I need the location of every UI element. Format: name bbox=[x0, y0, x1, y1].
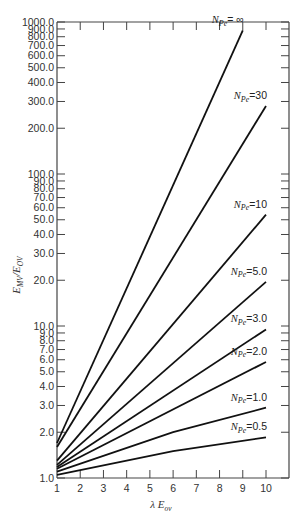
y-tick-label: 300.0 bbox=[28, 95, 54, 107]
y-tick-label: 1000.0 bbox=[22, 16, 54, 28]
x-tick-label: 10 bbox=[260, 482, 272, 494]
y-axis-ticks: 1.02.03.04.05.06.07.08.09.010.020.030.04… bbox=[22, 16, 289, 484]
curve-line bbox=[57, 437, 266, 474]
y-tick-label: 4.0 bbox=[39, 380, 54, 392]
y-tick-label: 40.0 bbox=[34, 228, 55, 240]
curve-label: NPe=2.0 bbox=[230, 345, 267, 360]
curve-label: NPe=10 bbox=[233, 198, 267, 213]
svg-text:EMV/EOV: EMV/EOV bbox=[10, 255, 25, 295]
curve-label: NPe=30 bbox=[233, 89, 267, 104]
chart: 1.02.03.04.05.06.07.08.09.010.020.030.04… bbox=[0, 0, 302, 514]
y-axis-title: EMV/EOV bbox=[10, 255, 25, 295]
curve-line bbox=[57, 408, 266, 472]
curve-label: NPe=5.0 bbox=[230, 265, 267, 280]
x-tick-label: 9 bbox=[240, 482, 246, 494]
x-tick-label: 3 bbox=[101, 482, 107, 494]
x-tick-label: 8 bbox=[217, 482, 223, 494]
y-tick-label: 400.0 bbox=[28, 76, 54, 88]
y-tick-label: 3.0 bbox=[39, 399, 54, 411]
x-axis-title: λ Eov bbox=[149, 498, 172, 513]
x-tick-label: 1 bbox=[54, 482, 60, 494]
curve-label: NPe= ∞ bbox=[211, 13, 244, 28]
x-tick-label: 6 bbox=[170, 482, 176, 494]
y-tick-label: 100.0 bbox=[28, 168, 54, 180]
y-tick-label: 50.0 bbox=[34, 213, 55, 225]
curve-line bbox=[57, 30, 243, 443]
svg-text:λ Eov: λ Eov bbox=[149, 498, 172, 513]
y-tick-label: 2.0 bbox=[39, 426, 54, 438]
y-tick-label: 5.0 bbox=[39, 365, 54, 377]
y-tick-label: 1.0 bbox=[39, 472, 54, 484]
x-tick-label: 4 bbox=[124, 482, 130, 494]
y-tick-label: 20.0 bbox=[34, 274, 55, 286]
y-tick-label: 10.0 bbox=[34, 320, 55, 332]
x-tick-label: 5 bbox=[147, 482, 153, 494]
curve-label: NPe=3.0 bbox=[230, 312, 267, 327]
y-tick-label: 500.0 bbox=[28, 61, 54, 73]
curve-label: NPe=0.5 bbox=[230, 420, 267, 435]
y-tick-label: 200.0 bbox=[28, 122, 54, 134]
curve-label: NPe=1.0 bbox=[230, 391, 267, 406]
x-tick-label: 2 bbox=[77, 482, 83, 494]
x-tick-label: 7 bbox=[193, 482, 199, 494]
y-tick-label: 30.0 bbox=[34, 247, 55, 259]
